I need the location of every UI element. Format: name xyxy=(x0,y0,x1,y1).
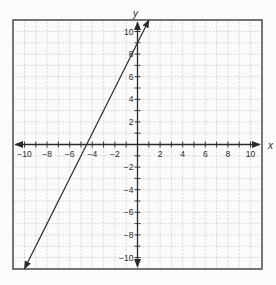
y-tick-label: −10 xyxy=(119,253,134,263)
y-tick-label: −2 xyxy=(124,162,134,172)
y-tick-label: 4 xyxy=(129,94,134,104)
x-tick-label: 10 xyxy=(246,149,256,159)
x-tick-label: 6 xyxy=(203,149,208,159)
y-tick-label: −4 xyxy=(124,185,134,195)
y-axis-label: y xyxy=(132,8,139,19)
x-tick-label: −6 xyxy=(65,149,75,159)
coordinate-plane: −10−8−6−4−2246810 −10−8−6−4−2246810 x y xyxy=(0,0,276,285)
x-tick-label: −4 xyxy=(87,149,97,159)
y-tick-label: −6 xyxy=(124,207,134,217)
y-tick-label: 2 xyxy=(129,117,134,127)
x-axis-label: x xyxy=(267,140,274,151)
x-tick-label: −2 xyxy=(110,149,120,159)
y-tick-label: 6 xyxy=(129,72,134,82)
y-tick-label: −8 xyxy=(124,230,134,240)
axes xyxy=(15,22,260,267)
x-tick-label: 4 xyxy=(180,149,185,159)
y-tick-label: 10 xyxy=(124,27,134,37)
x-tick-label: 8 xyxy=(226,149,231,159)
x-tick-label: −10 xyxy=(17,149,32,159)
x-tick-label: 2 xyxy=(158,149,163,159)
x-tick-label: −8 xyxy=(42,149,52,159)
x-tick-labels: −10−8−6−4−2246810 xyxy=(17,149,255,159)
